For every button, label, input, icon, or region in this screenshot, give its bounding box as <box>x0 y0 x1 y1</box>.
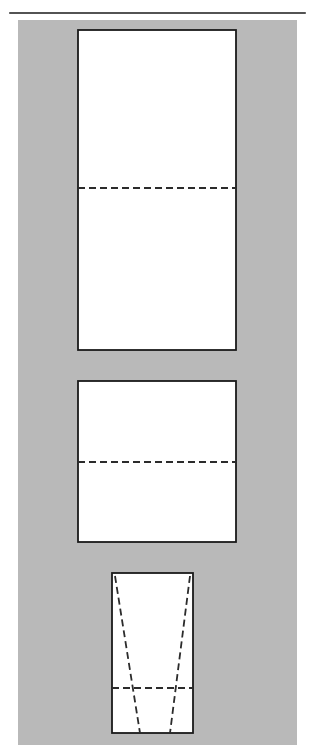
middle-rectangle-group <box>78 381 236 542</box>
upper-rectangle <box>78 30 236 350</box>
upper-rectangle-group <box>78 30 236 350</box>
drawing-page <box>0 0 315 755</box>
lower-rectangle-with-taper-group <box>112 573 193 733</box>
technical-drawing-canvas <box>0 0 315 755</box>
